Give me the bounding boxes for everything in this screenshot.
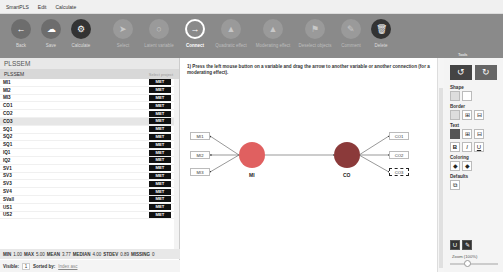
indicator-mi3[interactable]: MI3 [190, 168, 210, 176]
cursor-icon: ➤ [113, 19, 133, 39]
list-item[interactable]: SQ1MET [0, 126, 179, 134]
shape-circle-button[interactable] [450, 91, 460, 101]
latent-variable-co[interactable] [334, 142, 360, 168]
type-badge: MET [149, 142, 171, 148]
visible-field[interactable]: 1 [22, 263, 30, 270]
type-badge: MET [149, 126, 171, 132]
back-arrow-icon: ← [11, 19, 31, 39]
type-badge: MET [149, 95, 171, 101]
select-project-link[interactable]: Select project [149, 72, 173, 77]
text-grow-icon[interactable]: ⊞ [462, 129, 472, 139]
indicator-co1[interactable]: CO1 [389, 132, 409, 140]
shape-rect-button[interactable] [462, 91, 472, 101]
latent-variable-button[interactable]: ○Latent variable [138, 14, 180, 58]
back-button[interactable]: ←Back [6, 14, 36, 58]
list-item[interactable]: MI2MET [0, 87, 179, 95]
type-badge: MET [149, 111, 171, 117]
moderating-effect-button[interactable]: ▲Moderating effect [252, 14, 294, 58]
type-badge: MET [149, 204, 171, 210]
menu-smartpls[interactable]: SmartPLS [6, 4, 29, 10]
connect-button[interactable]: →Connect [180, 14, 210, 58]
project-name: PLSSEM [4, 71, 24, 77]
scroll-thumb[interactable] [439, 88, 443, 268]
indicator-mi2[interactable]: MI2 [190, 151, 210, 159]
type-badge: MET [149, 103, 171, 109]
list-item[interactable]: SVallMET [0, 196, 179, 204]
zoom-slider-handle[interactable] [464, 260, 471, 267]
properties-panel: ↺ ↻ Shape Border ⊞ ⊟ Text ⊞ ⊟ B I U Colo… [444, 58, 503, 272]
magnet-icon[interactable]: U [450, 240, 460, 250]
list-item[interactable]: SQ2MET [0, 134, 179, 142]
sort-link[interactable]: Index asc [58, 264, 77, 269]
italic-button[interactable]: I [462, 142, 472, 152]
tools-label[interactable]: Tools [458, 52, 467, 57]
type-badge: MET [149, 196, 171, 202]
type-badge: MET [149, 79, 171, 85]
type-badge: MET [149, 134, 171, 140]
menu-edit[interactable]: Edit [38, 4, 47, 10]
save-button[interactable]: ☁Save [36, 14, 66, 58]
fill-color-icon[interactable]: ◆ [450, 161, 460, 171]
group-icon: ⚑ [305, 19, 325, 39]
list-item[interactable]: SV4MET [0, 188, 179, 196]
text-shrink-icon[interactable]: ⊟ [474, 129, 484, 139]
list-item[interactable]: SQ1MET [0, 141, 179, 149]
arrow-right-icon: → [185, 19, 205, 39]
gear-icon: ⚙ [71, 19, 91, 39]
delete-button[interactable]: 🗑Delete [366, 14, 396, 58]
comment-button[interactable]: ✎Comment [336, 14, 366, 58]
indicator-co3-selected[interactable]: CO3 [389, 168, 409, 176]
type-badge: MET [149, 173, 171, 179]
list-scrollbar[interactable] [174, 79, 179, 257]
pen-icon[interactable]: ✎ [462, 240, 472, 250]
deselect-objects-button[interactable]: ⚑Deselect objects [294, 14, 336, 58]
line-color-icon[interactable]: ◆ [462, 161, 472, 171]
type-badge: MET [149, 118, 171, 124]
indicator-stats: MIN1.00 MAX5.00 MEAN3.77 MEDIAN4.00 STDE… [0, 249, 180, 259]
border-add-icon[interactable]: ⊞ [462, 110, 472, 120]
list-item[interactable]: SV1MET [0, 165, 179, 173]
circle-icon: ○ [149, 19, 169, 39]
text-label: Text [450, 123, 459, 128]
defaults-label: Defaults [450, 174, 468, 179]
list-item[interactable]: CO2MET [0, 110, 179, 118]
type-badge: MET [149, 165, 171, 171]
latent-variable-mi[interactable] [239, 142, 265, 168]
indicator-mi1[interactable]: MI1 [190, 132, 210, 140]
list-item[interactable]: CO1MET [0, 102, 179, 110]
list-item[interactable]: MI3MET [0, 95, 179, 103]
calculate-button[interactable]: ⚙Calculate [66, 14, 96, 58]
list-item[interactable]: US2MET [0, 212, 179, 220]
border-remove-icon[interactable]: ⊟ [474, 110, 484, 120]
redo-button[interactable]: ↻ [475, 65, 497, 80]
menu-calculate[interactable]: Calculate [55, 4, 76, 10]
list-item[interactable]: IQ2MET [0, 157, 179, 165]
defaults-icon[interactable]: ⧉ [450, 180, 460, 190]
select-button[interactable]: ➤Select [108, 14, 138, 58]
border-none-button[interactable] [450, 110, 460, 120]
toolbar: ←Back ☁Save ⚙Calculate ➤Select ○Latent v… [0, 14, 503, 58]
border-label: Border [450, 104, 465, 109]
visibility-bar: Visible: 1 Sorted by: Index asc [0, 260, 180, 272]
text-color-button[interactable] [450, 129, 460, 139]
canvas-scrollbar[interactable] [437, 58, 444, 272]
list-item[interactable]: IQ1MET [0, 149, 179, 157]
undo-button[interactable]: ↺ [450, 65, 472, 80]
list-item[interactable]: MI1MET [0, 79, 179, 87]
project-row[interactable]: PLSSEM Select project [0, 69, 179, 79]
model-canvas[interactable]: 1) Press the left mouse button on a vari… [181, 58, 437, 272]
list-item[interactable]: US1MET [0, 204, 179, 212]
list-item[interactable]: SV3MET [0, 173, 179, 181]
cloud-save-icon: ☁ [41, 19, 61, 39]
panel-title: PLSSEM [0, 58, 179, 69]
list-item-selected[interactable]: CO3MET [0, 118, 179, 126]
quadratic-effect-button[interactable]: ▲Quadratic effect [210, 14, 252, 58]
trash-icon: 🗑 [371, 19, 391, 39]
indicator-co2[interactable]: CO2 [389, 151, 409, 159]
connection-lines [181, 58, 437, 272]
type-badge: MET [149, 150, 171, 156]
zoom-slider[interactable] [450, 263, 498, 265]
list-item[interactable]: SV3MET [0, 180, 179, 188]
bold-button[interactable]: B [450, 142, 460, 152]
underline-button[interactable]: U [474, 142, 484, 152]
